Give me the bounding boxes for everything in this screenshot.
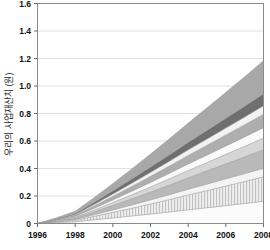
x-tick-2008: 2008 [254, 230, 270, 240]
x-tick-2006: 2006 [216, 230, 235, 240]
x-tick-1996: 1996 [28, 230, 47, 240]
x-tick-2004: 2004 [179, 230, 198, 240]
area-series-group [38, 61, 264, 224]
y-tick-1.6: 1.6 [11, 0, 31, 9]
x-tick-1998: 1998 [66, 230, 85, 240]
y-tick-0.8: 0.8 [11, 109, 31, 119]
y-tick-1.0: 1.0 [11, 81, 31, 91]
y-tick-0.4: 0.4 [11, 164, 31, 174]
y-tick-0.6: 0.6 [11, 136, 31, 146]
y-tick-1.2: 1.2 [11, 54, 31, 64]
x-tick-2002: 2002 [141, 230, 160, 240]
plot-area [0, 0, 270, 250]
y-tick-1.4: 1.4 [11, 26, 31, 36]
y-tick-0: 0 [11, 219, 31, 229]
y-tick-0.2: 0.2 [11, 191, 31, 201]
stacked-area-chart: 우리의 사업재산치 (원) 00.20.40.60.81.01.21.41.6 … [0, 0, 270, 250]
x-tick-2000: 2000 [103, 230, 122, 240]
